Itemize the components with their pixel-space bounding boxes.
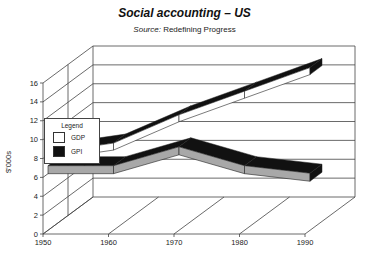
x-tick-label: 1980 <box>231 238 248 247</box>
x-tick-label: 1960 <box>100 238 117 247</box>
y-tick-label: 6 <box>34 173 38 182</box>
x-tick-label: 1950 <box>35 238 52 247</box>
legend-title: Legend <box>45 122 99 129</box>
legend-item-gpi: GPI <box>53 146 99 157</box>
y-tick-label: 8 <box>34 154 38 163</box>
y-tick-label: 2 <box>34 211 38 220</box>
y-tick-label: 10 <box>30 135 38 144</box>
x-tick-label: 1990 <box>297 238 314 247</box>
y-tick-label: 14 <box>30 97 38 106</box>
x-tick-label: 1970 <box>166 238 183 247</box>
y-axis-label: $'000s <box>4 151 13 173</box>
y-tick-label: 4 <box>34 192 38 201</box>
legend-item-gdp: GDP <box>53 132 99 143</box>
legend-label-gpi: GPI <box>71 148 82 155</box>
legend-swatch-gpi <box>53 146 65 157</box>
y-tick-label: 16 <box>30 79 38 88</box>
y-tick-label: 12 <box>30 116 38 125</box>
legend: Legend GDP GPI <box>44 118 100 164</box>
legend-label-gdp: GDP <box>71 134 85 141</box>
legend-swatch-gdp <box>53 132 65 143</box>
